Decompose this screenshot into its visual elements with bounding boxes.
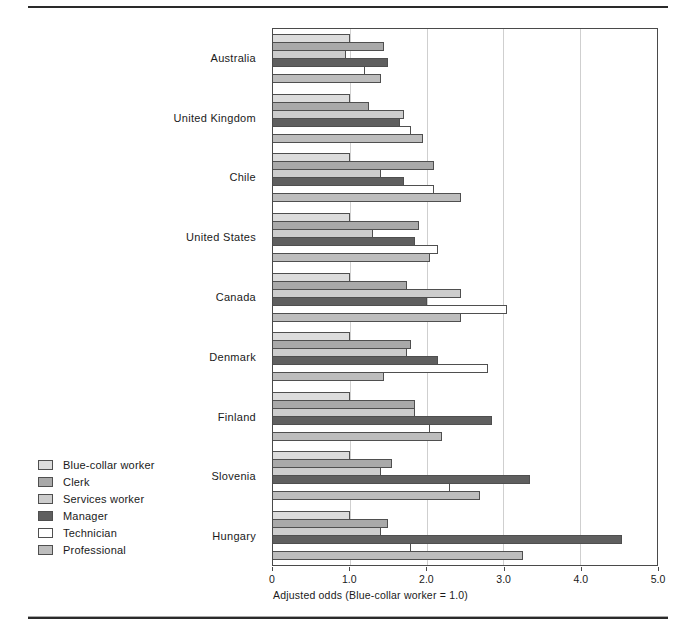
legend-item-manager: Manager (38, 507, 155, 524)
bar-groups (273, 29, 657, 565)
bar-group-australia (273, 29, 657, 89)
category-label-chile: Chile (0, 148, 264, 208)
x-axis-title: Adjusted odds (Blue-collar worker = 1.0) (273, 589, 468, 601)
bar-united-states-professional (273, 253, 430, 262)
top-horizontal-rule (28, 6, 668, 8)
legend-item-services-worker: Services worker (38, 490, 155, 507)
bar-denmark-professional (273, 372, 384, 381)
category-label-canada: Canada (0, 267, 264, 327)
bar-group-denmark (273, 327, 657, 387)
x-tick-mark-4.0 (581, 567, 582, 571)
bar-group-hungary (273, 506, 657, 566)
legend-swatch-clerk (38, 477, 53, 487)
legend-swatch-professional (38, 545, 53, 555)
legend-swatch-services-worker (38, 494, 53, 504)
x-axis: 01.02.03.04.05.0 (272, 567, 658, 585)
x-tick-label-1.0: 1.0 (342, 573, 357, 585)
bar-united-kingdom-professional (273, 134, 423, 143)
bar-group-united-states (273, 208, 657, 268)
category-label-australia: Australia (0, 28, 264, 88)
category-label-united-kingdom: United Kingdom (0, 88, 264, 148)
bar-group-chile (273, 148, 657, 208)
legend-swatch-manager (38, 511, 53, 521)
bar-canada-professional (273, 313, 461, 322)
bar-group-finland (273, 386, 657, 446)
legend: Blue-collar workerClerkServices workerMa… (38, 456, 155, 558)
x-tick-label-2.0: 2.0 (419, 573, 434, 585)
legend-label-technician: Technician (63, 527, 117, 539)
x-tick-label-4.0: 4.0 (573, 573, 588, 585)
legend-label-clerk: Clerk (63, 476, 90, 488)
bottom-horizontal-rule (28, 616, 668, 619)
bar-finland-professional (273, 432, 442, 441)
legend-item-blue-collar-worker: Blue-collar worker (38, 456, 155, 473)
legend-item-professional: Professional (38, 541, 155, 558)
legend-label-services-worker: Services worker (63, 493, 144, 505)
legend-swatch-blue-collar-worker (38, 460, 53, 470)
bar-group-canada (273, 267, 657, 327)
bar-slovenia-professional (273, 491, 480, 500)
x-tick-mark-1.0 (349, 567, 350, 571)
x-tick-label-0: 0 (269, 573, 275, 585)
figure: AustraliaUnited KingdomChileUnited State… (0, 0, 690, 632)
legend-item-technician: Technician (38, 524, 155, 541)
x-tick-label-3.0: 3.0 (496, 573, 511, 585)
x-tick-mark-0 (272, 567, 273, 571)
x-tick-label-5.0: 5.0 (651, 573, 666, 585)
bar-group-slovenia (273, 446, 657, 506)
x-tick-mark-3.0 (504, 567, 505, 571)
legend-label-professional: Professional (63, 544, 126, 556)
legend-label-manager: Manager (63, 510, 108, 522)
x-tick-mark-2.0 (426, 567, 427, 571)
bar-hungary-professional (273, 551, 523, 560)
legend-item-clerk: Clerk (38, 473, 155, 490)
x-tick-mark-5.0 (658, 567, 659, 571)
bar-chile-professional (273, 193, 461, 202)
bar-australia-professional (273, 74, 381, 83)
legend-swatch-technician (38, 528, 53, 538)
category-label-denmark: Denmark (0, 327, 264, 387)
plot-area (272, 28, 658, 566)
category-label-finland: Finland (0, 387, 264, 447)
legend-label-blue-collar-worker: Blue-collar worker (63, 459, 155, 471)
bar-group-united-kingdom (273, 89, 657, 149)
category-label-united-states: United States (0, 207, 264, 267)
